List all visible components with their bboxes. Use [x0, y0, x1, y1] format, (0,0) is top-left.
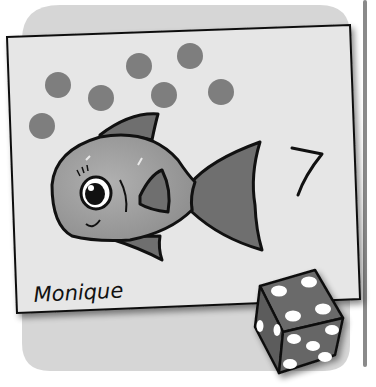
die-pip — [283, 359, 297, 369]
dot — [29, 113, 55, 139]
die-pip — [271, 286, 287, 297]
fish-eye-highlight — [88, 185, 94, 191]
die-pip — [301, 277, 317, 288]
fish-eye-pupil — [85, 183, 105, 205]
die-pip — [257, 320, 264, 332]
die-pip — [285, 311, 301, 322]
die-pip — [318, 352, 332, 362]
dot — [88, 85, 114, 111]
dot — [177, 43, 203, 69]
die-pip — [287, 334, 301, 344]
die-pip — [315, 304, 331, 315]
dot — [151, 82, 177, 108]
side-bar — [363, 0, 367, 367]
dot — [126, 53, 152, 79]
dot — [45, 72, 71, 98]
die-pip — [274, 324, 281, 336]
dot — [208, 79, 234, 105]
die-pip — [325, 325, 339, 335]
signature-text: Monique — [33, 278, 124, 307]
illustration-canvas: 7 Monique — [0, 0, 376, 387]
die-pip — [306, 341, 320, 351]
